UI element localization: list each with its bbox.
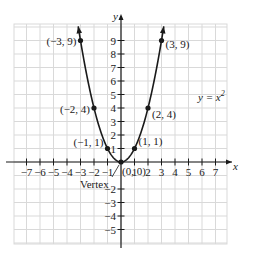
coordinate-plane: −7−6−5−4−3−2−11234567987654321−2−3−4−5 (… [0,0,254,260]
y-axis-arrow-icon [119,14,124,20]
x-tick-label: 6 [199,166,205,178]
point-labels: (−3, 9)(−2, 4)(−1, 1)(0, 0)(1, 1)(2, 4)(… [46,35,189,179]
y-tick-label: 3 [111,116,117,128]
y-tick-label: 5 [111,89,117,101]
data-point [78,38,83,43]
x-axis-arrow-icon [226,160,232,165]
equation-label: y = x2 [197,89,225,103]
x-tick-label: 3 [159,166,165,178]
data-point [118,159,123,164]
x-tick-label: −7 [21,166,33,178]
point-label: (−2, 4) [60,103,90,116]
y-tick-label: 1 [111,143,117,155]
y-tick-label: 4 [111,102,117,114]
x-axis-label: x [232,160,238,172]
y-tick-label: 2 [111,129,117,141]
y-axis-label: y [112,10,118,22]
y-tick-label: −3 [104,197,116,209]
y-tick-label: −5 [104,224,116,236]
y-tick-label: 7 [111,62,117,74]
data-point [132,146,137,151]
vertex-label: Vertex [80,178,109,190]
x-tick-label: 7 [213,166,219,178]
x-tick-label: 5 [186,166,192,178]
point-label: (2, 4) [152,108,176,121]
x-tick-label: 2 [145,166,151,178]
x-tick-label: −1 [102,166,114,178]
y-tick-label: 9 [111,35,117,47]
point-label: (−3, 9) [46,35,76,48]
x-tick-label: −5 [48,166,60,178]
point-label: (−1, 1) [73,136,103,149]
y-tick-label: 6 [111,75,117,87]
point-label: (3, 9) [166,38,190,51]
point-label: (1, 1) [139,135,163,148]
y-tick-label: 8 [111,48,117,60]
y-tick-label: −4 [104,210,116,222]
x-tick-label: −2 [88,166,100,178]
x-tick-label: −4 [61,166,73,178]
data-point [145,105,150,110]
point-label: (0, 0) [122,165,146,178]
x-tick-label: −3 [75,166,87,178]
parabola-graph: −7−6−5−4−3−2−11234567987654321−2−3−4−5 (… [0,0,254,260]
data-point [159,38,164,43]
x-tick-label: −6 [34,166,46,178]
data-point [105,146,110,151]
x-tick-label: 4 [172,166,178,178]
data-point [91,105,96,110]
